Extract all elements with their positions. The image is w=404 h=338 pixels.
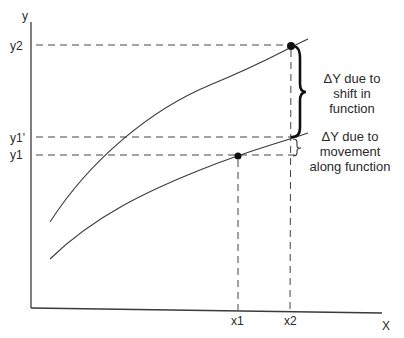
guide-x2 [290, 50, 291, 311]
y-tick-y2: y2 [10, 39, 23, 53]
x-tick-x2: x2 [284, 314, 297, 328]
y-tick-y1-prime: y1' [10, 131, 25, 145]
shift-annotation-line2: shift in [333, 86, 371, 101]
x-tick-x1: x1 [231, 314, 244, 328]
shift-annotation-line1: ΔY due to [324, 71, 381, 86]
movement-annotation: ΔY due to movement along function [310, 129, 391, 174]
movement-annotation-line2: movement [320, 144, 381, 159]
x-axis [31, 308, 382, 313]
shift-annotation: ΔY due to shift in function [324, 71, 381, 116]
movement-annotation-line3: along function [310, 159, 391, 174]
shift-annotation-line3: function [329, 101, 375, 116]
x-axis-label: X [382, 319, 390, 333]
y-axis-label: y [22, 9, 28, 23]
shifted-function-curve [50, 39, 308, 222]
point-x1-y1 [235, 153, 242, 160]
diagram-canvas: y X y2 y1' y1 x1 x2 ΔY due to shift in f… [0, 0, 404, 338]
original-function-curve [50, 133, 308, 259]
y-tick-y1: y1 [10, 148, 23, 162]
movement-annotation-line1: ΔY due to [322, 129, 379, 144]
shift-brace [292, 46, 306, 137]
movement-brace [293, 139, 301, 156]
